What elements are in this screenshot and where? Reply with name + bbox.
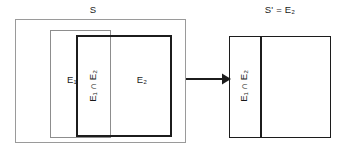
venn-conditional-probability-diagram: S E₁ E₂ E₁ ∩ E₂ S' = E₂ E₁ ∩ E₂: [0, 0, 342, 156]
event-e1-label: E₁: [67, 75, 77, 85]
transformation-arrow: [186, 71, 231, 87]
reduced-sample-space-label: S' = E₂: [265, 5, 295, 15]
event-e2-label: E₂: [137, 75, 147, 85]
intersection-e1-e2-label-right: E₁ ∩ E₂: [239, 70, 249, 102]
reduced-space-divider: [260, 36, 262, 138]
sample-space-label: S: [90, 5, 97, 15]
intersection-e1-e2-label: E₁ ∩ E₂: [88, 70, 98, 102]
